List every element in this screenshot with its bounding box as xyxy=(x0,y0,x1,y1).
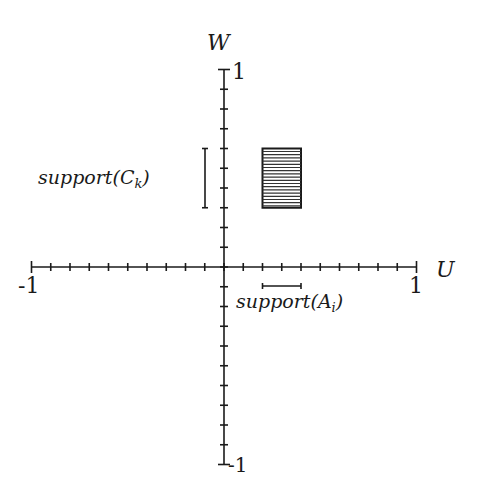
y-max-label: 1 xyxy=(232,59,246,84)
support-c-label: support(Ck) xyxy=(38,166,150,191)
y-axis-label: W xyxy=(207,30,232,55)
x-min-label: -1 xyxy=(18,273,39,298)
axes xyxy=(32,70,417,465)
x-max-label: 1 xyxy=(409,273,423,298)
diagram: W U 1 -1 -1 1 support(Ai) support(Ck) xyxy=(0,0,485,499)
hatched-rectangle xyxy=(263,149,302,208)
x-axis-label: U xyxy=(436,257,456,282)
support-a-label: support(Ai) xyxy=(236,290,343,315)
y-min-label: -1 xyxy=(228,453,247,477)
